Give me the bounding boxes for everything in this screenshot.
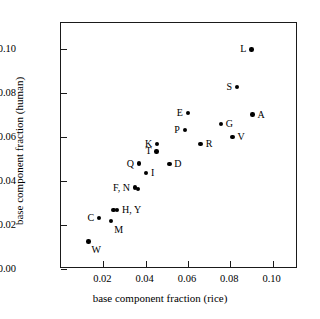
data-point-label: Q	[127, 159, 134, 169]
data-point	[250, 112, 254, 116]
data-point-label: D	[174, 159, 181, 169]
scatter-plot-figure: LSAEGPVKRTQDIF, NH, YCMW 0.000.020.040.0…	[0, 0, 320, 319]
data-point	[154, 149, 158, 153]
y-tick	[61, 49, 67, 50]
data-point	[144, 171, 148, 175]
data-point	[97, 216, 101, 220]
data-point	[186, 111, 190, 115]
x-tick-label: 0.10	[262, 273, 280, 284]
y-tick	[61, 269, 67, 270]
data-point	[111, 208, 115, 212]
data-point-label: S	[226, 82, 232, 92]
data-point	[219, 122, 223, 126]
data-point-label: P	[174, 125, 180, 135]
data-point	[235, 85, 239, 89]
data-point	[86, 239, 90, 243]
data-point	[249, 47, 253, 51]
x-tick	[230, 261, 231, 267]
data-point	[198, 142, 202, 146]
data-point	[167, 162, 171, 166]
data-point-label: E	[177, 108, 183, 118]
y-tick	[61, 137, 67, 138]
x-tick	[188, 261, 189, 267]
x-tick-label: 0.04	[135, 273, 153, 284]
data-point-label: W	[92, 245, 101, 255]
x-tick-label: 0.08	[220, 273, 238, 284]
data-point	[109, 219, 113, 223]
data-point-label: C	[87, 213, 94, 223]
y-axis-title: base component fraction (human)	[13, 26, 25, 276]
data-point-label: R	[206, 139, 213, 149]
data-point-label: T	[146, 146, 152, 156]
data-point	[183, 128, 187, 132]
data-point-label: H, Y	[122, 205, 141, 215]
x-tick	[273, 261, 274, 267]
data-point	[155, 142, 159, 146]
data-point-label: V	[237, 132, 244, 142]
data-point-label: L	[240, 44, 246, 54]
data-point	[230, 135, 234, 139]
x-tick-label: 0.02	[93, 273, 111, 284]
data-point-label: M	[114, 225, 123, 235]
data-point-label: A	[258, 110, 265, 120]
data-point-label: G	[226, 119, 233, 129]
plot-frame: LSAEGPVKRTQDIF, NH, YCMW	[60, 22, 297, 268]
y-tick	[61, 181, 67, 182]
data-point	[137, 161, 141, 165]
data-point	[136, 187, 140, 191]
y-tick	[61, 225, 67, 226]
x-tick	[146, 261, 147, 267]
data-point-label: I	[151, 168, 154, 178]
x-axis-title: base component fraction (rice)	[0, 292, 320, 304]
plot-area: LSAEGPVKRTQDIF, NH, YCMW	[61, 23, 296, 267]
x-tick-label: 0.06	[178, 273, 196, 284]
data-point-label: F, N	[113, 183, 130, 193]
y-tick	[61, 93, 67, 94]
x-tick	[103, 261, 104, 267]
